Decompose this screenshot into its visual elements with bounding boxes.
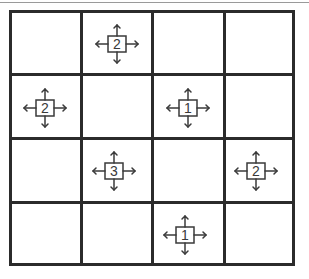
clue-number: 1 xyxy=(179,100,197,116)
clue-r2-c1: 3 xyxy=(89,149,139,193)
clue-r2-c3: 2 xyxy=(231,149,281,193)
clue-number: 2 xyxy=(247,163,265,179)
grid-line-h2 xyxy=(9,137,295,140)
clue-r1-c2: 1 xyxy=(163,86,213,130)
clue-number: 1 xyxy=(176,227,194,243)
grid-line-h3 xyxy=(9,201,295,204)
clue-number: 2 xyxy=(108,36,126,52)
clue-r1-c0: 2 xyxy=(20,86,70,130)
clue-number: 3 xyxy=(105,163,123,179)
cropped-top-rule xyxy=(0,0,309,3)
clue-r0-c1: 2 xyxy=(92,22,142,66)
clue-number: 2 xyxy=(36,100,54,116)
grid-line-h1 xyxy=(9,73,295,76)
clue-r3-c2: 1 xyxy=(160,213,210,257)
